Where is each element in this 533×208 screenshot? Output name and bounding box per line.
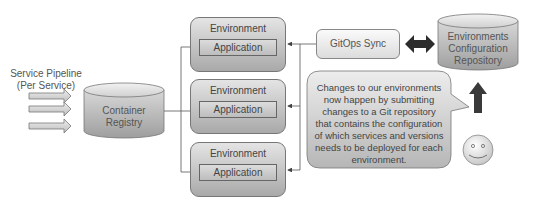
gitops-sync-box: GitOps Sync [316, 29, 400, 59]
bidirectional-sync-arrow [405, 35, 435, 53]
pipeline-arrows [29, 89, 71, 133]
registry-line1: Container [84, 105, 164, 117]
environment-box-1: Environment Application [190, 17, 286, 72]
callout-text: Changes to our environments now happen b… [314, 82, 444, 166]
environment-box-3: Environment Application [190, 142, 286, 197]
application-box: Application [199, 39, 277, 56]
smiley-face-icon [463, 135, 493, 165]
registry-line2: Registry [84, 117, 164, 129]
environment-title: Environment [191, 148, 285, 159]
config-repo-line1: Environments [438, 31, 518, 43]
pipeline-title: Service Pipeline [0, 68, 92, 80]
environment-title: Environment [191, 85, 285, 96]
environment-box-2: Environment Application [190, 79, 286, 134]
config-repo-line3: Repository [438, 55, 518, 67]
application-box: Application [199, 164, 277, 181]
up-arrow-icon [469, 82, 487, 113]
container-registry-label: Container Registry [84, 105, 164, 129]
environment-title: Environment [191, 23, 285, 34]
application-box: Application [199, 101, 277, 118]
pipeline-subtitle: (Per Service) [0, 80, 92, 92]
config-repo-line2: Configuration [438, 43, 518, 55]
config-repo-label: Environments Configuration Repository [438, 31, 518, 67]
pipeline-label: Service Pipeline (Per Service) [0, 68, 92, 92]
